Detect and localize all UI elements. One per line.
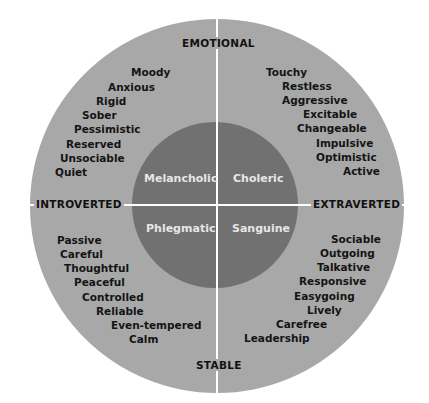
trait: Reserved [66,137,121,151]
trait: Responsive [299,274,366,288]
trait: Carefree [276,317,327,331]
trait: Touchy [266,65,307,79]
trait: Talkative [317,260,370,274]
axis-label-emotional: EMOTIONAL [180,37,257,49]
trait: Calm [129,332,158,346]
trait: Aggressive [282,93,348,107]
trait: Restless [282,79,332,93]
trait: Sociable [331,232,381,246]
trait: Quiet [55,165,87,179]
trait: Unsociable [60,151,125,165]
trait: Leadership [244,331,310,345]
trait: Outgoing [320,246,375,260]
trait: Sober [82,108,117,122]
trait: Passive [57,233,102,247]
trait: Impulsive [316,136,373,150]
trait: Pessimistic [74,122,141,136]
trait: Moody [131,65,170,79]
axis-label-extraverted: EXTRAVERTED [311,198,402,210]
axis-label-introverted: INTROVERTED [34,198,124,210]
trait: Reliable [96,304,144,318]
trait: Controlled [82,290,144,304]
trait: Changeable [297,121,367,135]
axis-label-stable: STABLE [194,359,244,371]
trait: Active [343,164,380,178]
temperament-choleric: Choleric [233,172,283,185]
temperament-sanguine: Sanguine [232,222,290,235]
trait: Easygoing [294,289,355,303]
trait: Peaceful [74,275,125,289]
trait: Lively [307,303,342,317]
trait: Excitable [303,107,357,121]
trait: Anxious [108,80,155,94]
temperament-phlegmatic: Phlegmatic [146,222,215,235]
trait: Thoughtful [64,261,129,275]
trait: Even-tempered [111,318,202,332]
trait: Careful [60,247,103,261]
trait: Rigid [96,94,126,108]
temperament-melancholic: Melancholic [144,172,217,185]
trait: Optimistic [316,150,377,164]
